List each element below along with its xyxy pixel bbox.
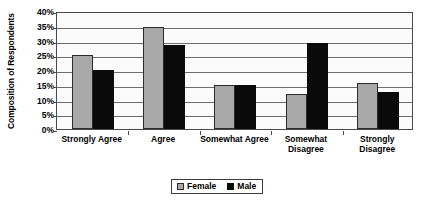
chart-legend: Female Male: [171, 179, 263, 194]
y-tick-label: 25%: [22, 52, 54, 60]
plot-area: [56, 12, 413, 130]
y-tick-mark: [53, 28, 57, 29]
x-axis-category-labels: Strongly AgreeAgreeSomewhat AgreeSomewha…: [56, 134, 413, 162]
bar-group: [271, 11, 342, 129]
y-tick-label: 35%: [22, 23, 54, 31]
bar-chart: Composition of Respondents 40%35%30%25%2…: [0, 0, 429, 203]
y-tick-mark: [53, 131, 57, 132]
x-axis-label-line: Agree: [127, 134, 198, 144]
x-axis-label-line: Strongly Disagree: [342, 134, 413, 154]
legend-item-male: Male: [227, 182, 256, 191]
y-tick-label: 15%: [22, 82, 54, 90]
bar-male: [307, 43, 328, 129]
bar-group: [128, 11, 199, 129]
x-axis-label-line: Somewhat: [270, 134, 341, 144]
bar-female: [214, 85, 235, 129]
y-tick-mark: [53, 13, 57, 14]
x-axis-label-line: Somewhat Agree: [199, 134, 270, 144]
bar-male: [93, 70, 114, 129]
bar-male: [235, 85, 256, 129]
x-axis-label-line: Disagree: [270, 144, 341, 154]
bar-group: [200, 11, 271, 129]
y-tick-mark: [53, 87, 57, 88]
bar-group: [57, 11, 128, 129]
y-tick-label: 20%: [22, 67, 54, 75]
y-axis-tick-labels: 40%35%30%25%20%15%10%5%0%: [22, 0, 54, 203]
bar-female: [72, 55, 93, 129]
y-tick-mark: [53, 102, 57, 103]
bar-male: [378, 92, 399, 129]
bar-male: [164, 45, 185, 129]
y-tick-label: 30%: [22, 38, 54, 46]
bar-group: [343, 11, 414, 129]
y-tick-mark: [53, 43, 57, 44]
y-axis-title: Composition of Respondents: [6, 6, 16, 136]
x-axis-label: Strongly Disagree: [342, 134, 413, 154]
bar-female: [143, 27, 164, 129]
y-tick-label: 40%: [22, 8, 54, 16]
bar-female: [286, 94, 307, 129]
y-tick-mark: [53, 72, 57, 73]
legend-item-female: Female: [177, 182, 216, 191]
y-tick-mark: [53, 116, 57, 117]
male-swatch-icon: [227, 183, 234, 190]
legend-label-male: Male: [237, 182, 256, 191]
y-tick-label: 10%: [22, 97, 54, 105]
x-axis-label: Strongly Agree: [56, 134, 127, 144]
y-tick-mark: [53, 57, 57, 58]
bar-female: [357, 83, 378, 129]
x-axis-label: Somewhat Agree: [199, 134, 270, 144]
y-tick-label: 0%: [22, 126, 54, 134]
x-axis-label: Agree: [127, 134, 198, 144]
y-tick-label: 5%: [22, 111, 54, 119]
x-axis-label: SomewhatDisagree: [270, 134, 341, 154]
female-swatch-icon: [177, 183, 184, 190]
x-axis-label-line: Strongly Agree: [56, 134, 127, 144]
legend-label-female: Female: [187, 182, 216, 191]
